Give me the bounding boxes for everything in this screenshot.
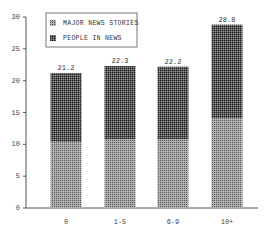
bar-segment-major-news-stories — [51, 142, 82, 208]
bar-segment-people-in-news — [212, 25, 243, 119]
legend-swatch — [50, 35, 56, 41]
bar-total-label: 28.8 — [219, 16, 236, 24]
bar-segment-people-in-news — [158, 67, 189, 140]
x-tick-label: 0 — [64, 218, 68, 226]
legend-label: PEOPLE IN NEWS — [63, 35, 122, 42]
stacked-bar-chart: 051015202530 21.2022.31-522.26-928.810+ … — [0, 0, 277, 242]
x-tick-label: 6-9 — [167, 218, 180, 226]
bar-total-label: 22.2 — [165, 58, 182, 66]
y-tick-label: 25 — [12, 45, 20, 53]
bar-group-1-5: 22.31-5 — [105, 57, 136, 226]
bar-group-0: 21.20 — [51, 64, 82, 226]
bar-segment-people-in-news — [105, 66, 136, 139]
y-tick-label: 15 — [12, 109, 20, 117]
bar-total-label: 21.2 — [58, 64, 75, 72]
bar-group-6-9: 22.26-9 — [158, 58, 189, 226]
x-tick-label: 10+ — [221, 218, 234, 226]
y-tick-label: 30 — [12, 13, 20, 21]
legend-label: MAJOR NEWS STORIES — [63, 20, 139, 27]
y-tick-label: 5 — [16, 172, 20, 180]
bar-segment-people-in-news — [51, 73, 82, 142]
y-tick-label: 10 — [12, 140, 20, 148]
x-tick-label: 1-5 — [114, 218, 127, 226]
y-tick-label: 0 — [16, 204, 20, 212]
bar-group-10+: 28.810+ — [212, 16, 243, 226]
bar-segment-major-news-stories — [212, 118, 243, 208]
bar-total-label: 22.3 — [112, 57, 129, 65]
bar-segment-major-news-stories — [158, 139, 189, 208]
legend-swatch — [50, 20, 56, 26]
legend: MAJOR NEWS STORIESPEOPLE IN NEWS — [46, 13, 139, 47]
y-tick-label: 20 — [12, 77, 20, 85]
bar-segment-major-news-stories — [105, 139, 136, 208]
